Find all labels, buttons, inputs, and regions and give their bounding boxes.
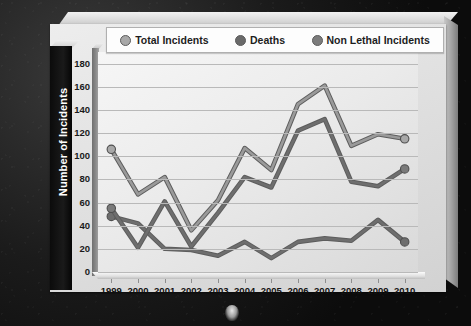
y-axis-tick-label: 80 bbox=[54, 174, 90, 184]
series-marker bbox=[107, 204, 115, 212]
legend-item-label: Total Incidents bbox=[135, 34, 208, 46]
gridline bbox=[98, 110, 418, 111]
screenshot-backdrop: Number of Incidents 02040608010012014016… bbox=[0, 0, 471, 326]
gridline bbox=[98, 203, 418, 204]
y-axis-tick-label: 120 bbox=[54, 128, 90, 138]
gridline bbox=[98, 156, 418, 157]
plot-area bbox=[98, 52, 418, 272]
y-axis-tick-label: 40 bbox=[54, 221, 90, 231]
gridline bbox=[98, 226, 418, 227]
legend-swatch-icon bbox=[235, 35, 246, 46]
y-axis-tick-label: 20 bbox=[54, 244, 90, 254]
x-axis-tick-mark bbox=[298, 279, 299, 283]
y-axis-tick-label: 140 bbox=[54, 105, 90, 115]
legend-swatch-icon bbox=[120, 35, 131, 46]
plot-floor bbox=[92, 272, 425, 279]
gridline bbox=[98, 133, 418, 134]
y-axis-tick-label: 0 bbox=[54, 267, 90, 277]
legend-item: Non Lethal Incidents bbox=[312, 34, 430, 46]
slab-right-bevel bbox=[444, 16, 458, 288]
chart-3d-slab: Number of Incidents 02040608010012014016… bbox=[18, 12, 458, 302]
x-axis-tick-mark bbox=[271, 279, 272, 283]
legend-item: Deaths bbox=[235, 34, 285, 46]
gridline bbox=[98, 64, 418, 65]
gridline bbox=[98, 272, 418, 273]
chart-legend: Total IncidentsDeathsNon Lethal Incident… bbox=[106, 27, 444, 53]
series-marker bbox=[401, 238, 409, 246]
x-axis-tick-mark bbox=[191, 279, 192, 283]
y-axis-tick-label: 160 bbox=[54, 82, 90, 92]
gridline bbox=[98, 249, 418, 250]
series-layer bbox=[98, 52, 418, 272]
legend-swatch-icon bbox=[312, 35, 323, 46]
light-speck-artifact bbox=[225, 305, 239, 321]
y-axis-tick-label: 60 bbox=[54, 198, 90, 208]
x-axis-tick-mark bbox=[245, 279, 246, 283]
x-axis-tick-mark bbox=[111, 279, 112, 283]
x-axis-tick-mark bbox=[325, 279, 326, 283]
x-axis-tick-label: 2010 bbox=[388, 285, 422, 296]
legend-item: Total Incidents bbox=[120, 34, 208, 46]
gridline bbox=[98, 179, 418, 180]
y-axis-tick-label: 180 bbox=[54, 59, 90, 69]
x-axis-tick-mark bbox=[351, 279, 352, 283]
x-axis-tick-mark bbox=[165, 279, 166, 283]
series-marker bbox=[401, 165, 409, 173]
series-marker bbox=[107, 145, 115, 153]
legend-item-label: Non Lethal Incidents bbox=[327, 34, 430, 46]
series-line bbox=[111, 86, 404, 231]
series-line-outline bbox=[111, 216, 404, 258]
x-axis-tick-mark bbox=[218, 279, 219, 283]
y-axis-tick-label: 100 bbox=[54, 151, 90, 161]
x-axis-tick-mark bbox=[378, 279, 379, 283]
legend-item-label: Deaths bbox=[250, 34, 285, 46]
x-axis-tick-mark bbox=[405, 279, 406, 283]
x-axis-tick-mark bbox=[138, 279, 139, 283]
chart-panel: Number of Incidents 02040608010012014016… bbox=[50, 24, 446, 292]
gridline bbox=[98, 87, 418, 88]
series-marker bbox=[401, 135, 409, 143]
